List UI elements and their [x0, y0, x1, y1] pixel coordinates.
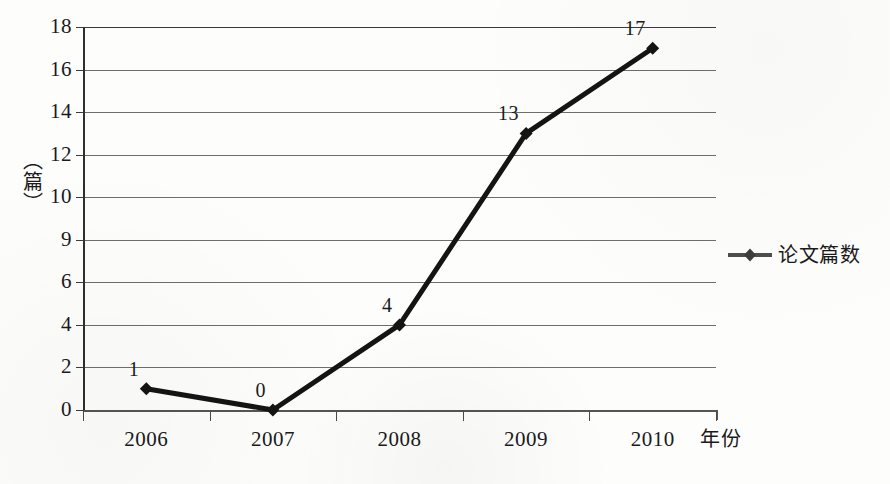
x-tick-mark — [589, 411, 590, 421]
y-tick-label: 16 — [26, 59, 72, 80]
x-tick-mark — [83, 411, 84, 421]
x-tick-label: 2007 — [213, 427, 333, 451]
y-tick-label: 2 — [26, 356, 72, 377]
y-tick-mark — [76, 197, 84, 198]
x-tick-label: 2006 — [86, 427, 206, 451]
x-tick-mark — [716, 411, 717, 421]
gridline — [83, 197, 716, 198]
data-point-label: 0 — [206, 380, 266, 400]
y-tick-mark — [76, 70, 84, 71]
x-axis-line — [83, 410, 717, 412]
gridline — [83, 70, 716, 71]
y-tick-label: 14 — [26, 101, 72, 122]
y-tick-label: 6 — [26, 271, 72, 292]
gridline — [83, 240, 716, 241]
y-tick-mark — [76, 27, 84, 28]
chart-screenshot: 024691012141618 （篇） 年份 论文篇数 200620072008… — [0, 0, 890, 484]
y-axis-ticks: 024691012141618 — [0, 0, 72, 484]
gridline — [83, 325, 716, 326]
x-tick-mark — [210, 411, 211, 421]
gridline — [83, 112, 716, 113]
legend: 论文篇数 — [726, 245, 860, 265]
legend-marker-diamond-icon — [726, 247, 774, 263]
x-tick-mark — [336, 411, 337, 421]
y-axis-title: （篇） — [8, 150, 42, 213]
x-tick-label: 2009 — [466, 427, 586, 451]
x-tick-label: 2010 — [593, 427, 713, 451]
data-point-label: 4 — [333, 295, 393, 315]
y-tick-mark — [76, 155, 84, 156]
x-tick-label: 2008 — [340, 427, 460, 451]
y-tick-mark — [76, 240, 84, 241]
y-axis-line — [83, 27, 85, 411]
y-tick-mark — [76, 282, 84, 283]
y-tick-mark — [76, 325, 84, 326]
gridline — [83, 155, 716, 156]
data-point-label: 17 — [586, 18, 646, 38]
plot-area — [83, 27, 716, 410]
y-tick-mark — [76, 112, 84, 113]
y-tick-label: 0 — [26, 399, 72, 420]
data-point-label: 13 — [459, 103, 519, 123]
gridline — [83, 282, 716, 283]
legend-label: 论文篇数 — [778, 245, 860, 265]
y-tick-label: 9 — [26, 229, 72, 250]
data-point-label: 1 — [79, 359, 139, 379]
x-tick-mark — [463, 411, 464, 421]
y-tick-label: 4 — [26, 314, 72, 335]
gridline — [83, 367, 716, 368]
y-tick-label: 18 — [26, 16, 72, 37]
